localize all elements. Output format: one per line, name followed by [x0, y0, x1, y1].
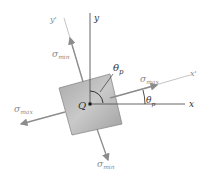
sigma-max-label-left: σmax	[14, 104, 33, 115]
sigma-min-label-top: σmin	[52, 49, 70, 60]
sigma-min-arrow-bottom	[97, 129, 108, 160]
theta-p-label-top: θp	[113, 62, 124, 76]
y-prime-label: y'	[49, 15, 57, 24]
origin-label: Q	[78, 100, 86, 111]
theta-p-label-right: θp	[146, 95, 155, 108]
sigma-min-label-bottom: σmin	[97, 159, 115, 170]
y-axis-label: y	[93, 13, 100, 23]
origin-point	[89, 103, 92, 106]
sigma-min-arrow-top	[70, 38, 83, 82]
diagram-canvas: y x y' x' Q θp θp σmax σmax σmin σmin	[0, 0, 207, 180]
theta-arc-bottom	[143, 90, 145, 104]
x-prime-label: x'	[190, 69, 197, 78]
sigma-max-label-right: σmax	[140, 74, 159, 85]
stress-element-diagram: y x y' x' Q θp θp σmax σmax σmin σmin	[0, 0, 207, 180]
x-axis-label: x	[189, 99, 194, 109]
